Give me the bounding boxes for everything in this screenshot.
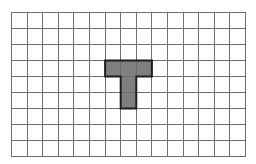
grid-cell[interactable]	[198, 124, 215, 141]
grid-cell[interactable]	[167, 124, 184, 141]
grid-cell[interactable]	[151, 28, 168, 45]
grid-cell[interactable]	[11, 60, 28, 77]
grid-cell[interactable]	[42, 124, 59, 141]
grid-cell[interactable]	[167, 76, 184, 93]
grid-cell[interactable]	[42, 140, 59, 157]
grid-cell[interactable]	[198, 140, 215, 157]
grid-cell[interactable]	[11, 108, 28, 125]
grid-cell[interactable]	[11, 28, 28, 45]
grid-cell[interactable]	[167, 92, 184, 109]
grid-cell[interactable]	[183, 92, 200, 109]
grid-cell[interactable]	[214, 12, 231, 29]
grid-cell[interactable]	[105, 28, 122, 45]
grid-cell[interactable]	[73, 76, 90, 93]
grid-cell[interactable]	[198, 44, 215, 61]
grid-cell[interactable]	[151, 92, 168, 109]
grid-cell[interactable]	[136, 28, 153, 45]
grid-cell[interactable]	[136, 92, 153, 109]
grid-cell[interactable]	[229, 92, 246, 109]
grid-cell[interactable]	[229, 60, 246, 77]
grid-cell[interactable]	[27, 108, 44, 125]
grid-cell[interactable]	[151, 76, 168, 93]
grid-cell[interactable]	[27, 76, 44, 93]
grid-cell[interactable]	[167, 28, 184, 45]
grid-cell[interactable]	[73, 92, 90, 109]
grid-cell[interactable]	[105, 108, 122, 125]
grid-cell[interactable]	[89, 124, 106, 141]
grid-cell[interactable]	[151, 12, 168, 29]
grid-cell[interactable]	[183, 44, 200, 61]
grid-cell[interactable]	[89, 76, 106, 93]
grid-cell[interactable]	[214, 124, 231, 141]
grid-cell[interactable]	[214, 60, 231, 77]
grid-cell[interactable]	[11, 76, 28, 93]
grid-cell[interactable]	[167, 44, 184, 61]
grid-cell[interactable]	[183, 76, 200, 93]
grid-cell[interactable]	[183, 28, 200, 45]
piece-cell[interactable]	[120, 76, 137, 93]
grid-cell[interactable]	[42, 12, 59, 29]
grid-cell[interactable]	[120, 12, 137, 29]
grid-cell[interactable]	[198, 92, 215, 109]
grid-cell[interactable]	[73, 124, 90, 141]
grid-cell[interactable]	[11, 44, 28, 61]
piece-cell[interactable]	[136, 60, 153, 77]
grid-cell[interactable]	[229, 76, 246, 93]
grid-cell[interactable]	[27, 140, 44, 157]
grid-cell[interactable]	[11, 140, 28, 157]
grid-cell[interactable]	[27, 28, 44, 45]
grid-cell[interactable]	[198, 108, 215, 125]
grid-cell[interactable]	[151, 140, 168, 157]
grid-cell[interactable]	[58, 124, 75, 141]
grid-cell[interactable]	[183, 124, 200, 141]
grid-cell[interactable]	[198, 60, 215, 77]
grid-cell[interactable]	[73, 60, 90, 77]
grid-cell[interactable]	[89, 92, 106, 109]
grid-cell[interactable]	[167, 12, 184, 29]
grid-cell[interactable]	[136, 44, 153, 61]
grid-cell[interactable]	[136, 124, 153, 141]
grid-cell[interactable]	[198, 76, 215, 93]
grid-cell[interactable]	[214, 28, 231, 45]
grid-cell[interactable]	[151, 44, 168, 61]
grid-cell[interactable]	[105, 92, 122, 109]
grid-cell[interactable]	[73, 140, 90, 157]
grid-cell[interactable]	[58, 108, 75, 125]
game-board[interactable]	[11, 12, 245, 156]
grid-cell[interactable]	[89, 140, 106, 157]
grid-cell[interactable]	[89, 108, 106, 125]
piece-cell[interactable]	[120, 92, 137, 109]
grid-cell[interactable]	[27, 60, 44, 77]
grid-cell[interactable]	[167, 108, 184, 125]
grid-cell[interactable]	[229, 108, 246, 125]
grid-cell[interactable]	[167, 60, 184, 77]
grid-cell[interactable]	[58, 140, 75, 157]
grid-cell[interactable]	[120, 44, 137, 61]
grid-cell[interactable]	[120, 124, 137, 141]
grid-cell[interactable]	[58, 44, 75, 61]
grid-cell[interactable]	[167, 140, 184, 157]
grid-cell[interactable]	[73, 108, 90, 125]
grid-cell[interactable]	[214, 76, 231, 93]
grid-cell[interactable]	[136, 12, 153, 29]
grid-cell[interactable]	[229, 28, 246, 45]
grid-cell[interactable]	[27, 124, 44, 141]
grid-cell[interactable]	[229, 44, 246, 61]
grid-cell[interactable]	[89, 28, 106, 45]
grid-cell[interactable]	[58, 28, 75, 45]
grid-cell[interactable]	[58, 12, 75, 29]
grid-cell[interactable]	[229, 124, 246, 141]
grid-cell[interactable]	[229, 140, 246, 157]
grid-cell[interactable]	[73, 12, 90, 29]
grid-cell[interactable]	[27, 92, 44, 109]
grid-cell[interactable]	[11, 92, 28, 109]
grid-cell[interactable]	[42, 92, 59, 109]
grid-cell[interactable]	[120, 28, 137, 45]
grid-cell[interactable]	[136, 108, 153, 125]
grid-cell[interactable]	[120, 108, 137, 125]
grid-cell[interactable]	[27, 12, 44, 29]
grid-cell[interactable]	[183, 60, 200, 77]
grid-cell[interactable]	[89, 44, 106, 61]
grid-cell[interactable]	[214, 108, 231, 125]
grid-cell[interactable]	[136, 76, 153, 93]
